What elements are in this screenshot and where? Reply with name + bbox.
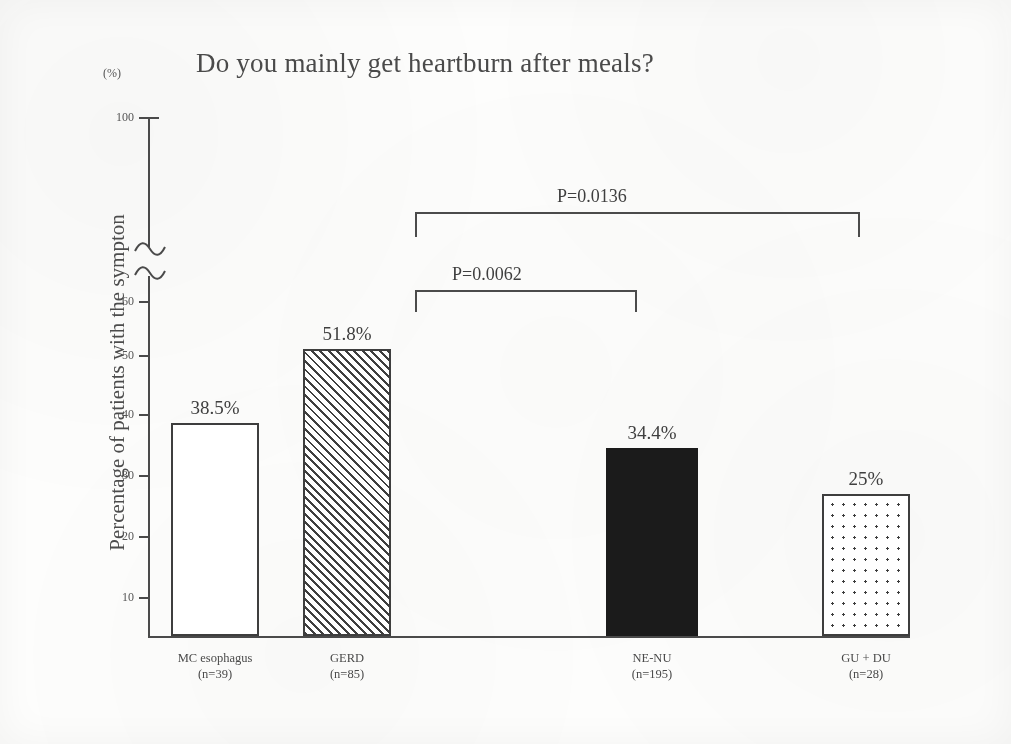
x-category-gerd: GERD (n=85) bbox=[267, 650, 427, 682]
plot-area: 100 60 50 40 30 20 10 38.5% 51.8% 34.4% … bbox=[0, 0, 1011, 744]
x-category-gu-du: GU + DU (n=28) bbox=[786, 650, 946, 682]
y-tick-100 bbox=[139, 117, 148, 119]
bar-value-gerd: 51.8% bbox=[283, 323, 411, 345]
significance-bracket-bar-1 bbox=[415, 212, 860, 214]
bar-value-mc-esophagus: 38.5% bbox=[151, 397, 279, 419]
x-category-label-1: GERD bbox=[330, 651, 364, 665]
significance-bracket-left-tick-1 bbox=[415, 212, 417, 237]
significance-bracket-bar-2 bbox=[415, 290, 637, 292]
chart-figure: Do you mainly get heartburn after meals?… bbox=[0, 0, 1011, 744]
x-category-label-3: GU + DU bbox=[841, 651, 890, 665]
y-tick-label-100: 100 bbox=[100, 110, 134, 125]
y-tick-40 bbox=[139, 414, 148, 416]
bar-ne-nu[interactable] bbox=[606, 448, 698, 636]
x-category-count-3: (n=28) bbox=[786, 666, 946, 682]
y-tick-50 bbox=[139, 355, 148, 357]
y-tick-label-50: 50 bbox=[100, 348, 134, 363]
y-tick-label-30: 30 bbox=[100, 468, 134, 483]
significance-label-p-0062: P=0.0062 bbox=[452, 264, 522, 285]
significance-bracket-right-tick-2 bbox=[635, 290, 637, 312]
y-tick-20 bbox=[139, 536, 148, 538]
x-category-label-2: NE-NU bbox=[633, 651, 672, 665]
significance-bracket-right-tick-1 bbox=[858, 212, 860, 237]
bar-value-ne-nu: 34.4% bbox=[588, 422, 716, 444]
significance-bracket-left-tick-2 bbox=[415, 290, 417, 312]
y-tick-60 bbox=[139, 301, 148, 303]
x-category-count-1: (n=85) bbox=[267, 666, 427, 682]
y-tick-label-60: 60 bbox=[100, 294, 134, 309]
y-tick-label-40: 40 bbox=[100, 407, 134, 422]
bar-gu-du[interactable] bbox=[822, 494, 910, 636]
y-axis-upper-segment bbox=[148, 117, 150, 247]
x-category-count-2: (n=195) bbox=[572, 666, 732, 682]
bar-gerd[interactable] bbox=[303, 349, 391, 636]
significance-label-p-0136: P=0.0136 bbox=[557, 186, 627, 207]
x-category-label-0: MC esophagus bbox=[178, 651, 253, 665]
bar-mc-esophagus[interactable] bbox=[171, 423, 259, 636]
x-axis-line bbox=[148, 636, 910, 638]
x-category-ne-nu: NE-NU (n=195) bbox=[572, 650, 732, 682]
y-tick-10 bbox=[139, 597, 148, 599]
y-tick-label-20: 20 bbox=[100, 529, 134, 544]
y-axis-break-upper-icon bbox=[133, 240, 167, 258]
bar-value-gu-du: 25% bbox=[802, 468, 930, 490]
y-tick-30 bbox=[139, 475, 148, 477]
y-tick-label-10: 10 bbox=[100, 590, 134, 605]
y-axis-break-lower-icon bbox=[133, 264, 167, 282]
y-axis-lower-segment bbox=[148, 276, 150, 638]
